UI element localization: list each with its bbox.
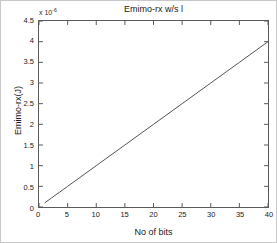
x-axis-tick-labels: 0510152025303540 (38, 210, 269, 221)
x-tick-label: 20 (149, 210, 157, 219)
y-tick-label: 2 (30, 120, 34, 129)
y-axis-title: Emimo-rx(J) (13, 56, 24, 166)
x-tick-label: 0 (36, 210, 40, 219)
y-tick-label: 1 (30, 162, 34, 171)
y-axis-exponent-multiplier: x 10-6 (39, 6, 57, 17)
y-tick-label: 3 (30, 78, 34, 87)
data-series-line (45, 42, 268, 203)
plot-canvas (39, 21, 268, 207)
x-tick-label: 10 (92, 210, 100, 219)
y-tick-label: 0 (30, 204, 34, 213)
x-tick-label: 15 (120, 210, 128, 219)
chart-figure: Emimo-rx w/s l x 10-6 00.511.522.533.544… (0, 0, 277, 243)
chart-title: Emimo-rx w/s l (38, 4, 269, 15)
x-tick-label: 30 (207, 210, 215, 219)
y-axis-exponent-base: x 10 (39, 9, 52, 16)
x-tick-label: 40 (265, 210, 273, 219)
x-tick-label: 35 (236, 210, 244, 219)
y-tick-label: 0.5 (24, 183, 34, 192)
plot-area (38, 20, 269, 208)
y-axis-exponent-power: -6 (52, 7, 56, 13)
y-tick-label: 1.5 (24, 141, 34, 150)
y-tick-label: 4.5 (24, 16, 34, 25)
y-tick-label: 2.5 (24, 99, 34, 108)
y-tick-label: 4 (30, 36, 34, 45)
axis-tick-marks (39, 21, 268, 207)
x-axis-title: No of bits (38, 227, 269, 238)
x-tick-label: 5 (65, 210, 69, 219)
x-tick-label: 25 (178, 210, 186, 219)
y-tick-label: 3.5 (24, 57, 34, 66)
